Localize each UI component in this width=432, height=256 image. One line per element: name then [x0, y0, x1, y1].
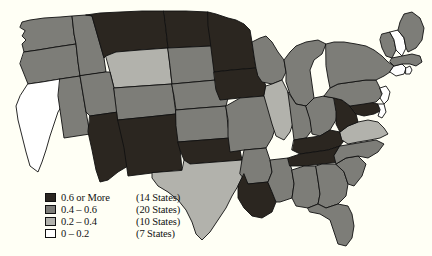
- map-figure: 0.6 or More (14 States) 0.4 – 0.6 (20 St…: [0, 0, 432, 256]
- legend-label-0: 0.6 or More: [61, 192, 136, 203]
- legend-item: 0.4 – 0.6 (20 States): [45, 203, 225, 215]
- legend-label-2: 0.2 – 0.4: [61, 216, 136, 227]
- legend-count-1: (20 States): [136, 204, 180, 215]
- state-SD: [168, 46, 216, 84]
- state-NJ: [380, 86, 390, 104]
- legend-swatch-0: [45, 193, 56, 202]
- legend-item: 0 – 0.2 (7 States): [45, 227, 225, 239]
- state-NM: [118, 114, 182, 176]
- state-MN: [208, 12, 256, 72]
- legend: 0.6 or More (14 States) 0.4 – 0.6 (20 St…: [45, 191, 225, 239]
- state-ND: [164, 11, 212, 48]
- legend-count-0: (14 States): [136, 192, 180, 203]
- state-RI: [406, 66, 412, 74]
- state-MA: [390, 54, 422, 66]
- state-WY: [106, 48, 172, 88]
- legend-item: 0.6 or More (14 States): [45, 191, 225, 203]
- legend-item: 0.2 – 0.4 (10 States): [45, 215, 225, 227]
- legend-count-2: (10 States): [136, 216, 180, 227]
- legend-swatch-3: [45, 229, 56, 238]
- legend-label-1: 0.4 – 0.6: [61, 204, 136, 215]
- legend-swatch-1: [45, 205, 56, 214]
- legend-swatch-2: [45, 217, 56, 226]
- state-FL: [308, 204, 354, 246]
- state-KS: [176, 106, 230, 142]
- state-AL: [292, 166, 320, 208]
- state-DE: [378, 104, 386, 118]
- state-CA: [16, 79, 64, 172]
- legend-count-3: (7 States): [136, 228, 175, 239]
- legend-label-3: 0 – 0.2: [61, 228, 136, 239]
